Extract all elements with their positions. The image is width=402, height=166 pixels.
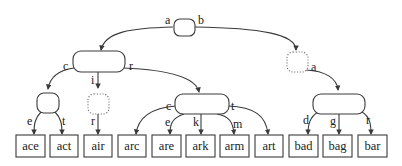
leaf-bag: bag xyxy=(328,139,347,153)
label-ar-e: e xyxy=(165,115,170,129)
label-ac-e: e xyxy=(27,114,32,128)
leaf-air: air xyxy=(91,139,105,153)
label-a-r: r xyxy=(129,59,133,73)
node-a xyxy=(73,51,125,72)
label-b-a: a xyxy=(311,60,317,74)
edge-ac-t xyxy=(55,112,62,134)
leaf-arc: arc xyxy=(124,139,140,153)
label-ba-g: g xyxy=(330,114,336,128)
label-ac-t: t xyxy=(62,114,66,128)
node-ai xyxy=(88,94,109,114)
label-ai-r: r xyxy=(91,114,95,128)
edge-ar-m xyxy=(217,114,234,134)
label-a-i: i xyxy=(91,73,95,87)
node-ba xyxy=(313,94,365,114)
leaf-are: are xyxy=(159,139,175,153)
node-ac xyxy=(37,93,59,113)
leaf-arm: arm xyxy=(225,139,245,153)
edge-ba-d xyxy=(308,112,318,134)
node-root xyxy=(174,19,195,36)
node-b xyxy=(287,52,308,72)
label-ar-k: k xyxy=(193,115,199,129)
label-ba-r: r xyxy=(366,113,370,127)
trie-diagram: a b c i r a e t r c e k m t d g r ace ac… xyxy=(0,0,402,166)
leaf-bar: bar xyxy=(365,139,382,153)
edge-ac-e xyxy=(34,112,41,134)
edge-a-c xyxy=(48,68,74,89)
label-ar-c: c xyxy=(166,99,171,113)
edge-ar-e xyxy=(170,114,184,134)
label-root-a: a xyxy=(165,13,171,27)
leaf-ark: ark xyxy=(193,139,210,153)
label-ar-m: m xyxy=(233,117,243,131)
label-root-b: b xyxy=(198,13,204,27)
leaves: ace act air arc are ark arm art bad bag … xyxy=(16,135,387,157)
edge-root-a xyxy=(101,27,173,50)
edge-root-b xyxy=(195,27,296,50)
leaf-art: art xyxy=(262,139,276,153)
node-ar xyxy=(175,94,229,114)
edges xyxy=(34,27,371,134)
label-a-c: c xyxy=(63,59,68,73)
leaf-act: act xyxy=(57,139,72,153)
label-ba-d: d xyxy=(303,113,309,127)
edge-a-r xyxy=(124,68,199,92)
leaf-bad: bad xyxy=(294,139,313,153)
leaf-ace: ace xyxy=(22,139,39,153)
